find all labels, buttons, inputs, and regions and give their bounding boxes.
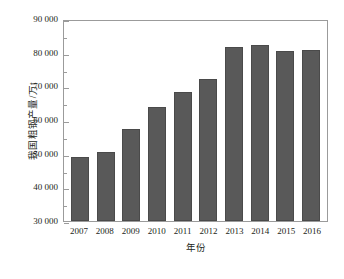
y-minor-tick — [64, 72, 67, 73]
bar — [148, 107, 166, 221]
y-major-tick — [64, 189, 69, 190]
bar — [97, 152, 115, 221]
bar — [251, 45, 269, 221]
x-tick-label: 2013 — [221, 225, 247, 239]
y-tick-label: 80 000 — [16, 49, 58, 58]
x-tick-label: 2008 — [92, 225, 118, 239]
y-major-tick — [64, 21, 69, 22]
y-major-tick — [64, 88, 69, 89]
y-minor-tick — [64, 206, 67, 207]
y-tick-label: 30 000 — [16, 217, 58, 226]
x-tick-label: 2012 — [196, 225, 222, 239]
x-tick-label: 2010 — [144, 225, 170, 239]
bar — [276, 51, 294, 221]
y-minor-tick — [64, 139, 67, 140]
x-tick-label: 2011 — [170, 225, 196, 239]
y-major-tick — [64, 156, 69, 157]
y-major-tick — [64, 55, 69, 56]
bar-series — [64, 21, 327, 221]
bar — [225, 47, 243, 221]
x-tick-label: 2016 — [299, 225, 325, 239]
y-minor-tick — [64, 105, 67, 106]
y-minor-tick — [64, 173, 67, 174]
y-major-tick — [64, 223, 69, 224]
x-axis-tick-labels: 2007200820092010201120122013201420152016 — [63, 225, 328, 239]
y-tick-label: 90 000 — [16, 15, 58, 24]
bar-chart-figure: 我国粗钢产量/万t 30 00040 00050 00060 00070 000… — [0, 0, 344, 279]
bar — [71, 157, 89, 221]
y-axis-tick-labels: 30 00040 00050 00060 00070 00080 00090 0… — [14, 0, 58, 279]
x-tick-label: 2007 — [66, 225, 92, 239]
bar — [199, 79, 217, 221]
x-axis-title: 年份 — [63, 240, 328, 254]
y-major-tick — [64, 122, 69, 123]
bar — [302, 50, 320, 221]
plot-area — [63, 20, 328, 222]
y-minor-tick — [64, 38, 67, 39]
x-tick-label: 2014 — [247, 225, 273, 239]
y-tick-label: 40 000 — [16, 183, 58, 192]
x-tick-label: 2009 — [118, 225, 144, 239]
y-tick-label: 60 000 — [16, 116, 58, 125]
y-tick-label: 70 000 — [16, 82, 58, 91]
bar — [122, 129, 140, 221]
y-tick-label: 50 000 — [16, 150, 58, 159]
x-tick-label: 2015 — [273, 225, 299, 239]
bar — [174, 92, 192, 221]
